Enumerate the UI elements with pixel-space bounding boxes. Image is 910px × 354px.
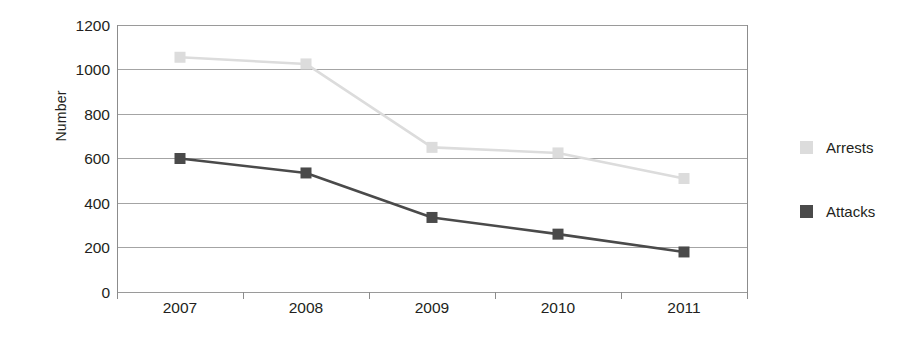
y-tick-label: 600 <box>58 151 110 167</box>
y-tick-label: 0 <box>58 285 110 301</box>
x-tick-label-2009: 2009 <box>369 300 495 316</box>
legend-label-arrests: Arrests <box>826 139 874 156</box>
legend-label-attacks: Attacks <box>826 203 875 220</box>
x-tick-label-2007: 2007 <box>117 300 243 316</box>
y-axis-tick-labels: 1200 1000 800 600 400 200 0 <box>55 0 110 354</box>
y-tick-label: 1200 <box>58 18 110 34</box>
y-tick-label: 1000 <box>58 62 110 78</box>
series-layer <box>175 52 690 258</box>
legend-swatch-arrests <box>800 141 813 154</box>
legend: Arrests Attacks <box>800 138 905 266</box>
x-tick-label-2011: 2011 <box>621 300 747 316</box>
y-tick-label: 800 <box>58 107 110 123</box>
x-axis-ticks <box>117 292 747 299</box>
y-tick-label: 200 <box>58 240 110 256</box>
legend-swatch-attacks <box>800 205 813 218</box>
x-tick-label-2010: 2010 <box>495 300 621 316</box>
legend-item-arrests[interactable]: Arrests <box>800 138 905 156</box>
legend-item-attacks[interactable]: Attacks <box>800 202 905 220</box>
gridlines <box>117 25 747 292</box>
y-tick-label: 400 <box>58 196 110 212</box>
x-tick-label-2008: 2008 <box>243 300 369 316</box>
line-chart: Number 1200 1000 800 600 400 200 0 2007 … <box>0 0 910 354</box>
